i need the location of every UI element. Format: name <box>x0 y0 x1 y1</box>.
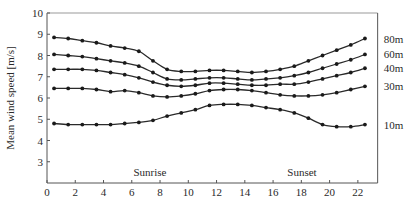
data-point-marker <box>208 68 212 72</box>
y-tick-label: 4 <box>38 135 44 147</box>
data-point-marker <box>264 106 268 110</box>
data-point-marker <box>349 125 353 129</box>
data-point-marker <box>307 80 311 84</box>
data-point-marker <box>278 108 282 112</box>
y-tick-label: 8 <box>38 50 44 62</box>
data-point-marker <box>236 88 240 92</box>
data-point-marker <box>222 68 226 72</box>
data-point-marker <box>95 123 99 127</box>
data-point-marker <box>335 62 339 66</box>
data-point-marker <box>349 58 353 62</box>
data-point-marker <box>151 118 155 122</box>
x-tick-label: 20 <box>324 186 336 198</box>
series-60m: 60m <box>52 48 403 81</box>
data-point-marker <box>123 122 127 126</box>
x-tick-label: 6 <box>129 186 135 198</box>
data-point-marker <box>109 59 113 63</box>
legend-label-30m: 30m <box>384 80 404 92</box>
data-point-marker <box>292 64 296 68</box>
data-point-marker <box>321 54 325 58</box>
data-point-marker <box>222 102 226 106</box>
data-point-marker <box>250 104 254 108</box>
data-point-marker <box>151 59 155 63</box>
axes: 3456789100246810121416182022 <box>32 7 378 198</box>
data-point-marker <box>66 37 70 41</box>
data-point-marker <box>236 77 240 81</box>
data-point-marker <box>80 55 84 59</box>
data-point-marker <box>307 71 311 75</box>
y-axis-label: Mean wind speed [m/s] <box>4 46 16 150</box>
y-tick-label: 9 <box>38 28 44 40</box>
data-point-marker <box>179 94 183 98</box>
data-point-marker <box>250 83 254 87</box>
data-point-marker <box>222 81 226 85</box>
data-point-marker <box>321 77 325 81</box>
data-point-marker <box>123 46 127 50</box>
data-point-marker <box>137 49 141 53</box>
y-tick-label: 3 <box>38 156 44 168</box>
y-tick-label: 10 <box>32 7 44 19</box>
data-point-marker <box>236 102 240 106</box>
data-point-marker <box>66 123 70 127</box>
y-tick-label: 6 <box>38 92 44 104</box>
data-point-marker <box>165 95 169 99</box>
data-point-marker <box>278 82 282 86</box>
x-tick-label: 22 <box>352 186 363 198</box>
x-tick-label: 0 <box>44 186 50 198</box>
x-tick-label: 8 <box>157 186 163 198</box>
data-point-marker <box>264 91 268 95</box>
data-point-marker <box>307 59 311 63</box>
y-tick-label: 7 <box>38 71 44 83</box>
x-tick-label: 10 <box>183 186 195 198</box>
legend-label-10m: 10m <box>384 119 404 131</box>
data-point-marker <box>278 93 282 97</box>
data-point-marker <box>52 36 56 40</box>
series-line <box>54 37 365 72</box>
data-point-marker <box>52 53 56 57</box>
data-point-marker <box>151 80 155 84</box>
data-point-marker <box>292 82 296 86</box>
data-point-marker <box>109 123 113 127</box>
data-point-marker <box>193 83 197 87</box>
legend-label-80m: 80m <box>384 33 404 45</box>
data-point-marker <box>321 93 325 97</box>
data-point-marker <box>80 123 84 127</box>
data-point-marker <box>292 74 296 78</box>
series-80m: 80m <box>52 33 403 75</box>
data-point-marker <box>165 114 169 118</box>
data-point-marker <box>165 83 169 87</box>
data-point-marker <box>236 82 240 86</box>
data-point-marker <box>349 88 353 92</box>
data-point-marker <box>179 111 183 115</box>
series-line <box>54 104 365 127</box>
wind-speed-chart: 3456789100246810121416182022 80m60m40m30… <box>0 0 411 199</box>
data-point-marker <box>95 68 99 72</box>
data-point-marker <box>363 37 367 41</box>
data-point-marker <box>208 81 212 85</box>
data-point-marker <box>208 89 212 93</box>
data-point-marker <box>292 94 296 98</box>
data-point-marker <box>52 122 56 126</box>
data-point-marker <box>321 66 325 70</box>
data-point-marker <box>222 76 226 80</box>
data-point-marker <box>349 43 353 47</box>
data-point-marker <box>123 73 127 77</box>
data-point-marker <box>307 116 311 120</box>
data-point-marker <box>335 74 339 78</box>
data-point-marker <box>278 67 282 71</box>
data-point-marker <box>193 70 197 74</box>
data-point-marker <box>321 123 325 127</box>
legend-label-40m: 40m <box>384 62 404 74</box>
data-point-marker <box>123 61 127 65</box>
data-point-marker <box>335 48 339 52</box>
data-point-marker <box>179 84 183 88</box>
data-point-marker <box>222 88 226 92</box>
data-point-marker <box>52 87 56 91</box>
data-point-marker <box>109 44 113 48</box>
data-point-marker <box>109 90 113 94</box>
data-point-marker <box>109 71 113 75</box>
data-point-marker <box>52 67 56 71</box>
data-point-marker <box>335 125 339 129</box>
data-point-marker <box>137 64 141 68</box>
data-point-marker <box>193 108 197 112</box>
